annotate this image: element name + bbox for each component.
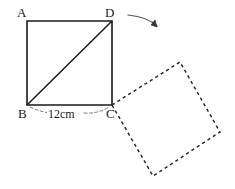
diagonal-bd	[27, 21, 112, 105]
geometry-figure: A D B C 12cm	[0, 0, 235, 189]
figure-canvas	[0, 0, 235, 189]
side-length-label: 12cm	[47, 108, 76, 120]
rotated-square-outline	[112, 62, 220, 176]
rotation-arrowhead-icon	[151, 20, 157, 27]
vertex-label-d: D	[105, 6, 114, 19]
vertex-label-b: B	[18, 107, 27, 120]
vertex-label-c: C	[106, 107, 115, 120]
vertex-label-a: A	[17, 6, 26, 19]
